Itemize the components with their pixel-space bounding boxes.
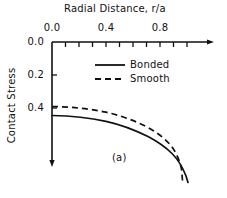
y-tick-label-0: 0.0 bbox=[20, 36, 44, 47]
y-tick-label-2: 0.4 bbox=[20, 102, 44, 113]
x-tick-label-2: 0.4 bbox=[93, 22, 119, 33]
y-axis-title: Contact Stress bbox=[6, 66, 17, 146]
series-bonded bbox=[52, 116, 188, 183]
x-axis bbox=[52, 42, 207, 47]
panel-label: (a) bbox=[112, 152, 127, 163]
y-tick-label-1: 0.2 bbox=[20, 69, 44, 80]
legend-samples bbox=[95, 65, 125, 79]
series-smooth bbox=[52, 107, 183, 181]
x-axis-title: Radial Distance, r/a bbox=[64, 3, 166, 14]
x-tick-label-4: 0.8 bbox=[147, 22, 173, 33]
legend-label-bonded: Bonded bbox=[130, 59, 169, 70]
figure-container: Radial Distance, r/a Contact Stress 0.0 … bbox=[0, 0, 227, 198]
legend-label-smooth: Smooth bbox=[130, 73, 170, 84]
x-tick-label-0: 0.0 bbox=[39, 22, 65, 33]
y-axis bbox=[52, 42, 57, 160]
